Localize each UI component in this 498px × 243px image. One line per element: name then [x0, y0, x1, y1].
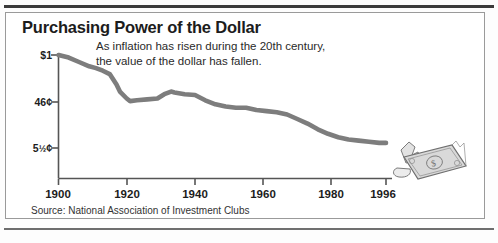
source-caption: Source: National Association of Investme… — [31, 205, 249, 216]
data-series-line — [59, 55, 387, 143]
purchasing-power-figure: Purchasing Power of the Dollar As inflat… — [0, 0, 498, 243]
torn-dollar-bill-icon: $ — [393, 141, 466, 179]
